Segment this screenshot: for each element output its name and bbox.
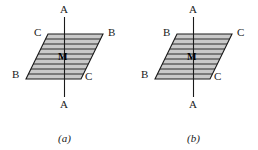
panel-b-axis-bottom-label: A — [189, 99, 197, 110]
panel-b-center-point-label: M — [187, 52, 196, 62]
panel-a-corner-top-left-label: C — [34, 27, 41, 38]
panel-a-corner-bottom-right-label: C — [85, 71, 92, 82]
figure-root: A A C B B C M (a) — [0, 0, 258, 150]
panel-b-corner-top-right-label: C — [237, 27, 244, 38]
panel-b-axis-top-label: A — [189, 4, 197, 15]
panel-b: A A B C B C M (b) — [129, 0, 258, 150]
panel-a: A A C B B C M (a) — [0, 0, 129, 150]
panel-b-corner-bottom-left-label: B — [141, 69, 148, 80]
panel-a-axis-top-label: A — [60, 4, 68, 15]
panel-a-center-point-label: M — [58, 52, 67, 62]
panel-a-corner-top-right-label: B — [108, 27, 115, 38]
panel-a-corner-bottom-left-label: B — [12, 69, 19, 80]
panel-b-corner-bottom-right-label: C — [214, 71, 221, 82]
panel-b-corner-top-left-label: B — [163, 27, 170, 38]
panel-a-axis-bottom-label: A — [60, 99, 68, 110]
panel-a-caption: (a) — [0, 132, 129, 144]
panel-b-caption: (b) — [129, 132, 258, 144]
